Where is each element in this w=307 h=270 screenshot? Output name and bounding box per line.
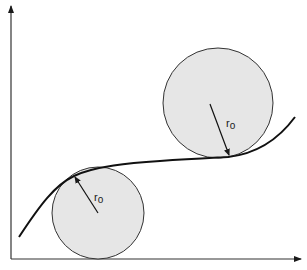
upper-radius-label: ro: [226, 117, 236, 131]
upper-circle: [163, 48, 273, 158]
lower-radius-label: ro: [94, 191, 104, 205]
diagram-canvas: ro ro: [0, 0, 307, 270]
